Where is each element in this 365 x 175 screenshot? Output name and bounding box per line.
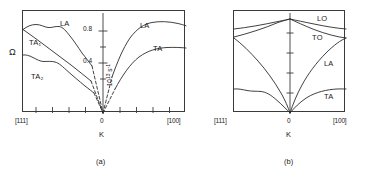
panel-a-label-ta1: TA₁ xyxy=(29,39,41,47)
panel-a-curve-la-111-extrapolation xyxy=(92,66,103,113)
panel-b-curve-la-111 xyxy=(234,38,290,113)
panel-a-xaxis-name: K xyxy=(99,131,104,139)
panel-b-label-to: TO xyxy=(312,34,323,42)
panel-a-plot-frame xyxy=(22,10,185,112)
panel-a-unit-suffix: s xyxy=(106,68,113,71)
panel-a-yaxis-unit: 1013 s-1 xyxy=(105,64,113,86)
panel-a-ylabel-0_8: 0.8 xyxy=(83,26,92,33)
panel-a-label-la-100: LA xyxy=(140,22,150,30)
panel-b: LO TO LA TA [111] 0 K [100] (b) xyxy=(200,0,365,175)
panel-a-unit-suffix-exponent: -1 xyxy=(105,64,111,68)
panel-a-omega-symbol: Ω xyxy=(9,48,16,57)
panel-b-xaxis-name: K xyxy=(286,131,291,139)
panel-b-xlabel-100: [100] xyxy=(333,118,346,125)
panel-a-xlabel-zero: 0 xyxy=(100,118,104,125)
panel-a: 0.8 0.4 1013 s-1 Ω LA TA₁ TA₂ LA TA [111… xyxy=(0,0,200,175)
panel-b-label-ta: TA xyxy=(324,93,333,101)
panel-b-label-la: LA xyxy=(324,60,334,68)
panel-a-curve-ta-100-extrapolation xyxy=(103,89,115,113)
panel-a-label-ta2-text: TA₂ xyxy=(31,72,44,81)
panel-b-xlabel-111: [111] xyxy=(214,118,227,125)
panel-b-xlabel-zero: 0 xyxy=(287,118,291,125)
panel-a-curves xyxy=(23,11,186,113)
panel-a-unit-mantissa: 10 xyxy=(106,79,113,86)
panel-a-curve-ta-100 xyxy=(115,47,186,89)
panel-b-label-lo: LO xyxy=(317,15,327,23)
phonon-dispersion-figure: 0.8 0.4 1013 s-1 Ω LA TA₁ TA₂ LA TA [111… xyxy=(0,0,365,175)
panel-b-curve-la-100 xyxy=(290,38,346,113)
panel-a-caption: (a) xyxy=(96,158,105,166)
panel-a-curve-ta2-111-extrapolation xyxy=(94,93,103,113)
panel-a-label-ta1-text: TA₁ xyxy=(29,38,41,47)
panel-b-curve-lo-111 xyxy=(234,19,290,29)
panel-a-xlabel-111: [111] xyxy=(15,118,28,125)
panel-b-caption: (b) xyxy=(284,158,293,166)
panel-a-label-ta2: TA₂ xyxy=(31,73,44,81)
panel-b-curve-ta-111 xyxy=(234,89,290,113)
panel-a-label-la-111: LA xyxy=(60,20,70,28)
panel-a-xlabel-100: [100] xyxy=(167,118,180,125)
panel-a-unit-exponent: 13 xyxy=(105,73,111,79)
panel-a-ylabel-0_4: 0.4 xyxy=(83,58,92,65)
panel-a-label-ta-100: TA xyxy=(153,45,162,53)
